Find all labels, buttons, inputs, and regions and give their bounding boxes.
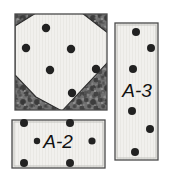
specimen-figure: A-3 A-2: [0, 0, 169, 177]
specimen-rect-a3: A-3: [115, 23, 158, 160]
figure-canvas: A-3 A-2: [0, 0, 169, 177]
dot-marker: [147, 44, 155, 52]
dot-marker: [20, 159, 28, 167]
dot-marker: [68, 89, 76, 97]
dot-marker: [128, 107, 136, 115]
dot-marker: [131, 148, 139, 156]
dot-marker: [92, 65, 100, 73]
dot-marker: [129, 65, 137, 73]
a3-label: A-3: [121, 80, 152, 101]
specimen-rect-a2: A-2: [12, 119, 105, 168]
dot-marker: [22, 44, 30, 52]
dot-marker: [132, 28, 140, 36]
a2-label: A-2: [42, 131, 73, 152]
dot-marker: [34, 138, 40, 144]
specimen-square-top-left: [15, 13, 108, 111]
dot-marker: [146, 125, 154, 133]
dot-marker: [20, 119, 28, 127]
dot-marker: [66, 119, 74, 127]
dot-marker: [42, 24, 50, 32]
dot-marker: [67, 45, 75, 53]
dot-marker: [88, 137, 95, 144]
dot-marker: [66, 159, 74, 167]
dot-marker: [46, 66, 54, 74]
